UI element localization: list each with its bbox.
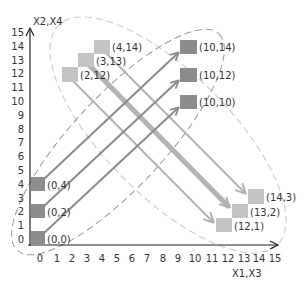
svg-text:8: 8 — [18, 124, 24, 135]
svg-text:0: 0 — [18, 234, 24, 245]
points-source-top: (2,12) (3,13) (4,14) — [62, 40, 142, 82]
point-square — [180, 95, 197, 109]
point-label: (10,14) — [199, 42, 236, 53]
svg-text:9: 9 — [175, 253, 181, 264]
diagram-canvas: X2,X4 X1,X3 0 1 2 3 4 5 6 7 8 9 10 11 12… — [0, 0, 303, 291]
svg-text:8: 8 — [160, 253, 166, 264]
svg-text:10: 10 — [11, 96, 24, 107]
svg-text:2: 2 — [69, 253, 75, 264]
svg-text:2: 2 — [18, 206, 24, 217]
point-label: (4,14) — [112, 42, 142, 53]
svg-text:15: 15 — [11, 27, 24, 38]
svg-text:6: 6 — [129, 253, 135, 264]
svg-text:3: 3 — [18, 193, 24, 204]
svg-text:9: 9 — [18, 110, 24, 121]
svg-text:14: 14 — [253, 253, 266, 264]
point-label: (0,4) — [47, 180, 71, 191]
svg-text:12: 12 — [11, 68, 24, 79]
arrow-3-13-to-13-2 — [88, 64, 229, 207]
svg-text:0: 0 — [37, 253, 43, 264]
point-square — [248, 189, 264, 204]
point-label: (12,1) — [234, 221, 264, 232]
point-square — [216, 218, 232, 232]
svg-text:5: 5 — [18, 165, 24, 176]
svg-text:15: 15 — [269, 253, 282, 264]
point-square — [78, 53, 94, 67]
point-square — [31, 231, 45, 244]
svg-text:3: 3 — [84, 253, 90, 264]
svg-text:7: 7 — [18, 137, 24, 148]
points-source-left: (0,0) (0,2) (0,4) — [31, 177, 71, 245]
point-square — [31, 204, 45, 218]
svg-text:7: 7 — [144, 253, 150, 264]
diagram-svg: X2,X4 X1,X3 0 1 2 3 4 5 6 7 8 9 10 11 12… — [0, 0, 303, 291]
svg-text:1: 1 — [18, 220, 24, 231]
svg-text:11: 11 — [206, 253, 219, 264]
point-label: (2,12) — [80, 70, 110, 81]
point-label: (0,0) — [47, 234, 71, 245]
y-tick-labels: 0 1 2 3 4 5 6 7 8 9 10 11 12 13 14 15 — [11, 27, 24, 245]
point-label: (0,2) — [47, 207, 71, 218]
x-tick-labels: 0 1 2 3 4 5 6 7 8 9 10 11 12 13 14 15 — [37, 253, 282, 264]
points-target-bottom-right: (12,1) (13,2) (14,3) — [216, 189, 296, 232]
svg-text:11: 11 — [11, 82, 24, 93]
point-square — [94, 40, 110, 54]
svg-text:4: 4 — [18, 179, 24, 190]
point-label: (14,3) — [266, 192, 296, 203]
point-square — [62, 67, 78, 82]
point-square — [31, 177, 45, 191]
svg-text:13: 13 — [11, 55, 24, 66]
svg-text:12: 12 — [222, 253, 235, 264]
svg-text:6: 6 — [18, 151, 24, 162]
svg-text:13: 13 — [238, 253, 251, 264]
svg-text:14: 14 — [11, 41, 24, 52]
point-label: (13,2) — [250, 207, 280, 218]
point-label: (3,13) — [96, 56, 126, 67]
svg-text:4: 4 — [99, 253, 105, 264]
svg-text:10: 10 — [189, 253, 202, 264]
point-square — [232, 204, 248, 218]
point-label: (10,10) — [199, 97, 236, 108]
point-square — [180, 40, 197, 54]
y-axis-label: X2,X4 — [33, 16, 63, 27]
points-target-right-up: (10,10) (10,12) (10,14) — [180, 40, 236, 109]
svg-text:5: 5 — [114, 253, 120, 264]
x-axis-label: X1,X3 — [232, 268, 262, 279]
point-label: (10,12) — [199, 70, 236, 81]
svg-text:1: 1 — [54, 253, 60, 264]
point-square — [180, 68, 197, 82]
